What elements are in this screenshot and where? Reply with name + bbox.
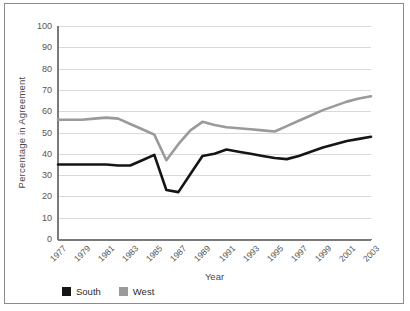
y-tick-label: 80: [42, 64, 52, 73]
series-line-south: [58, 137, 371, 192]
series-line-west: [58, 96, 371, 160]
y-tick-label: 10: [42, 213, 52, 222]
y-tick-label: 60: [42, 107, 52, 116]
y-tick-label: 50: [42, 128, 52, 137]
series-lines: [58, 26, 371, 239]
y-tick-label: 0: [47, 235, 52, 244]
y-tick-label: 100: [37, 22, 52, 31]
y-tick-label: 30: [42, 171, 52, 180]
chart-figure: Percentage in Agreement 0102030405060708…: [0, 0, 410, 311]
plot-area: 0102030405060708090100: [58, 26, 371, 239]
y-tick-label: 40: [42, 149, 52, 158]
y-axis-title: Percentage in Agreement: [14, 26, 28, 239]
y-tick-label: 20: [42, 192, 52, 201]
y-tick-label: 70: [42, 85, 52, 94]
y-tick-label: 90: [42, 43, 52, 52]
